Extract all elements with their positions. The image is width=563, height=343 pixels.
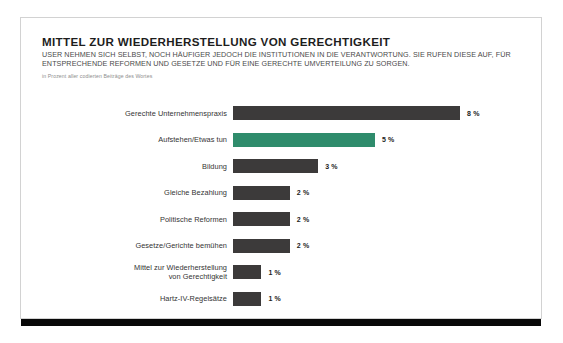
- bar-track: 2 %: [233, 180, 522, 207]
- bar: [233, 265, 261, 279]
- page-title: MITTEL ZUR WIEDERHERSTELLUNG VON GERECHT…: [42, 35, 522, 48]
- chart-row: Gesetze/Gerichte bemühen2 %: [42, 233, 522, 260]
- category-label: Gerechte Unternehmenspraxis: [42, 109, 233, 118]
- bar-value-label: 2 %: [297, 189, 310, 196]
- bar: [233, 159, 318, 173]
- category-label: Bildung: [42, 162, 233, 171]
- chart-row: Aufstehen/Etwas tun5 %: [42, 127, 522, 154]
- bar-value-label: 2 %: [297, 216, 310, 223]
- bar-value-label: 8 %: [467, 110, 480, 117]
- chart-unit-note: in Prozent aller codierten Beiträge des …: [42, 73, 522, 79]
- chart-header: MITTEL ZUR WIEDERHERSTELLUNG VON GERECHT…: [42, 35, 522, 79]
- bar-value-label: 3 %: [325, 163, 338, 170]
- bar: [233, 239, 290, 253]
- bar-track: 2 %: [233, 206, 522, 233]
- bar-track: 1 %: [233, 286, 522, 313]
- bar: [233, 186, 290, 200]
- category-label: Gleiche Bezahlung: [42, 188, 233, 197]
- bar: [233, 106, 460, 120]
- chart-card: MITTEL ZUR WIEDERHERSTELLUNG VON GERECHT…: [20, 17, 542, 319]
- bar-track: 3 %: [233, 153, 522, 180]
- bar-track: 1 %: [233, 259, 522, 286]
- category-label: Aufstehen/Etwas tun: [42, 135, 233, 144]
- chart-row: Hartz-IV-Regelsätze1 %: [42, 286, 522, 313]
- bar: [233, 212, 290, 226]
- bar-track: 8 %: [233, 100, 522, 127]
- infographic-page: MITTEL ZUR WIEDERHERSTELLUNG VON GERECHT…: [0, 0, 563, 343]
- chart-row: Politische Reformen2 %: [42, 206, 522, 233]
- chart-row: Bildung3 %: [42, 153, 522, 180]
- bar-value-label: 5 %: [382, 136, 395, 143]
- bar-track: 2 %: [233, 233, 522, 260]
- bar-value-label: 1 %: [268, 295, 281, 302]
- bar-highlighted: [233, 133, 375, 147]
- bar-chart: Gerechte Unternehmenspraxis8 %Aufstehen/…: [42, 100, 522, 312]
- chart-deck: USER NEHMEN SICH SELBST, NOCH HÄUFIGER J…: [42, 50, 516, 69]
- chart-row: Mittel zur Wiederherstellungvon Gerechti…: [42, 259, 522, 286]
- bar-value-label: 1 %: [268, 269, 281, 276]
- category-label: Gesetze/Gerichte bemühen: [42, 241, 233, 250]
- category-label: Politische Reformen: [42, 215, 233, 224]
- chart-row: Gleiche Bezahlung2 %: [42, 180, 522, 207]
- bar-value-label: 2 %: [297, 242, 310, 249]
- category-label: Hartz-IV-Regelsätze: [42, 294, 233, 303]
- footer-rule: [21, 319, 541, 326]
- chart-row: Gerechte Unternehmenspraxis8 %: [42, 100, 522, 127]
- bar: [233, 292, 261, 306]
- bar-track: 5 %: [233, 127, 522, 154]
- category-label: Mittel zur Wiederherstellungvon Gerechti…: [42, 263, 233, 282]
